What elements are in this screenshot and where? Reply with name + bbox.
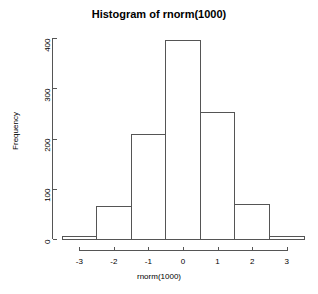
histogram-bar	[235, 205, 270, 239]
histogram-bar	[200, 113, 235, 239]
y-axis-title: Frequency	[11, 91, 21, 171]
x-axis-tick-label: 2	[242, 257, 262, 266]
x-axis-tick-label: 1	[208, 257, 228, 266]
histogram-bar	[269, 236, 304, 239]
histogram-bar	[97, 207, 132, 239]
y-axis-tick-label: 100	[42, 189, 51, 219]
histogram-plot: Histogram of rnorm(1000) 0100200300400 -…	[0, 0, 318, 294]
histogram-bar	[131, 135, 166, 239]
y-axis-tick-label: 400	[42, 38, 51, 68]
bars-group	[62, 41, 304, 239]
histogram-bar	[62, 237, 97, 239]
x-axis-tick-label: 0	[173, 257, 193, 266]
x-axis-tick-label: 3	[277, 257, 297, 266]
y-axis-tick-label: 0	[42, 239, 51, 269]
y-axis-tick-label: 200	[42, 139, 51, 169]
y-axis-tick-label: 300	[42, 88, 51, 118]
x-axis-tick-label: -1	[138, 257, 158, 266]
x-axis-title: rnorm(1000)	[0, 272, 318, 282]
x-axis-tick-label: -3	[69, 257, 89, 266]
x-axis-tick-label: -2	[104, 257, 124, 266]
histogram-bar	[166, 41, 201, 239]
